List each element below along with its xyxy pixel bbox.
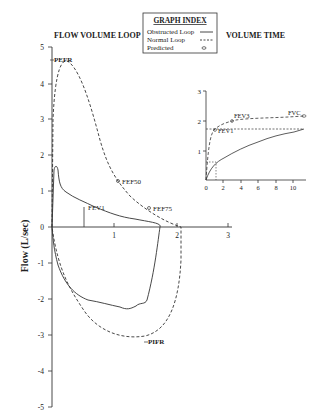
svg-text:-2: -2 bbox=[38, 295, 44, 304]
inset-x-tick-labels: 0 2 4 6 8 10 bbox=[204, 184, 296, 191]
fev1-main-label: FEV1 bbox=[88, 204, 105, 212]
inset-axes bbox=[203, 91, 306, 183]
legend-item-predicted: Predicted bbox=[147, 44, 174, 52]
volume-time-title: VOLUME TIME bbox=[226, 31, 285, 40]
svg-text:-1: -1 bbox=[38, 259, 44, 268]
svg-text:-4: -4 bbox=[38, 367, 44, 376]
legend: GRAPH INDEX Obstructed Loop Normal Loop … bbox=[143, 13, 217, 53]
fev1-inset-label: FEV1 bbox=[218, 127, 234, 134]
svg-text:0: 0 bbox=[204, 184, 207, 191]
inset-normal-curve bbox=[206, 116, 304, 180]
inset-y-tick-labels: 3 2 1 bbox=[198, 88, 202, 156]
main-y-tick-labels: 5 4 3 2 1 0 -1 -2 -3 -4 -5 bbox=[38, 43, 45, 412]
fef50-label: FEF50 bbox=[122, 178, 142, 186]
main-y-axis-label: Flow (L/sec) bbox=[19, 220, 31, 273]
legend-item-obstructed: Obstructed Loop bbox=[147, 28, 195, 36]
svg-text:4: 4 bbox=[239, 184, 243, 191]
fef75-marker-icon bbox=[148, 207, 151, 210]
svg-text:1: 1 bbox=[112, 231, 116, 240]
svg-text:5: 5 bbox=[40, 43, 44, 52]
svg-text:2: 2 bbox=[198, 118, 202, 126]
svg-text:8: 8 bbox=[274, 184, 277, 191]
svg-text:1: 1 bbox=[198, 148, 202, 156]
svg-text:2: 2 bbox=[175, 231, 179, 240]
svg-text:3: 3 bbox=[198, 88, 202, 96]
legend-title: GRAPH INDEX bbox=[153, 16, 207, 25]
svg-text:1: 1 bbox=[40, 187, 44, 196]
svg-text:4: 4 bbox=[40, 80, 44, 89]
svg-text:2: 2 bbox=[221, 184, 224, 191]
svg-text:6: 6 bbox=[256, 184, 260, 191]
fef75-label: FEF75 bbox=[153, 205, 173, 213]
svg-text:3: 3 bbox=[226, 231, 230, 240]
main-x-tick-labels: 1 2 3 bbox=[112, 231, 230, 240]
svg-text:10: 10 bbox=[290, 184, 297, 191]
main-axes bbox=[48, 47, 232, 407]
pefr-label: PEFR bbox=[54, 56, 73, 64]
legend-item-normal: Normal Loop bbox=[147, 36, 185, 44]
obstructed-loop-curve bbox=[52, 166, 160, 309]
svg-text:2: 2 bbox=[40, 151, 44, 160]
svg-text:3: 3 bbox=[40, 115, 44, 124]
svg-text:0: 0 bbox=[40, 223, 44, 232]
svg-text:-5: -5 bbox=[38, 403, 44, 412]
fev3-label: FEV3 bbox=[234, 112, 250, 119]
chart-canvas: FLOW VOLUME LOOP VOLUME TIME GRAPH INDEX… bbox=[0, 0, 318, 420]
normal-loop-curve bbox=[52, 61, 181, 337]
svg-text:-3: -3 bbox=[38, 331, 44, 340]
fvc-label: FVC bbox=[288, 109, 301, 116]
inset-obstructed-curve bbox=[206, 129, 304, 180]
flow-volume-title: FLOW VOLUME LOOP bbox=[54, 31, 141, 40]
pifr-label: PIFR bbox=[148, 338, 165, 346]
